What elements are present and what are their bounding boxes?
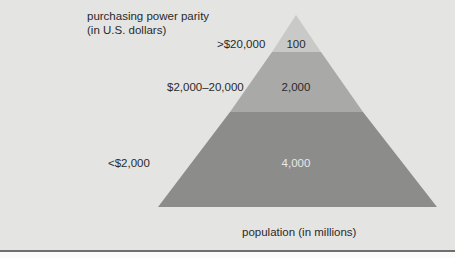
tier-label-middle: $2,000–20,000	[167, 81, 244, 94]
y-axis-subtitle: (in U.S. dollars)	[87, 24, 166, 37]
x-axis-label: population (in millions)	[242, 226, 356, 239]
tier-value-top: 100	[256, 38, 336, 51]
y-axis-title: purchasing power parity	[87, 10, 209, 23]
page-margin	[0, 252, 455, 258]
tier-value-middle: 2,000	[256, 81, 336, 94]
tier-value-bottom: 4,000	[256, 157, 336, 170]
tier-label-bottom: <$2,000	[108, 157, 150, 170]
